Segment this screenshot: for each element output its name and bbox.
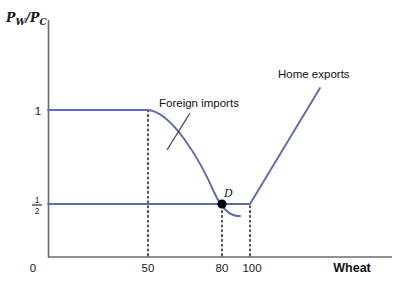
x-axis-title: Wheat	[333, 261, 371, 275]
y-tick-half-numerator: 1	[35, 195, 40, 205]
y-axis-sub-c: C	[40, 17, 48, 27]
equilibrium-point-text: D	[223, 187, 233, 200]
chart-svg: PW/PC Wheat 1 1 2 0 50 80 100 Foreign im…	[0, 0, 416, 292]
equilibrium-point-marker	[217, 199, 226, 208]
foreign-imports-annotation: Foreign imports	[159, 97, 239, 109]
chart-figure: PW/PC Wheat 1 1 2 0 50 80 100 Foreign im…	[0, 0, 416, 292]
chart-background	[0, 0, 416, 292]
x-tick-label-100: 100	[242, 262, 261, 274]
home-exports-annotation: Home exports	[278, 68, 350, 80]
x-tick-label-50: 50	[142, 262, 155, 274]
x-tick-label-80: 80	[216, 262, 229, 274]
y-axis-p-c: P	[29, 10, 40, 25]
x-tick-label-0: 0	[30, 262, 36, 274]
y-axis-p-w: P	[5, 10, 16, 25]
y-tick-half-denominator: 2	[35, 206, 40, 216]
y-tick-label-1: 1	[35, 105, 41, 117]
